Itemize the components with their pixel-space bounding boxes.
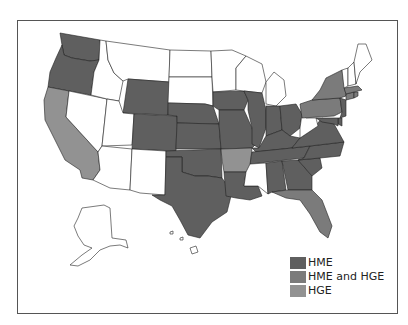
state-sd [168, 77, 213, 106]
state-ia [213, 91, 248, 110]
legend-swatch-hme [290, 257, 306, 269]
state-ny [312, 70, 346, 100]
legend-item-hme: HME [290, 256, 384, 270]
state-ks [176, 123, 221, 149]
state-hi [170, 231, 173, 234]
state-mi [266, 72, 286, 106]
state-co [132, 114, 177, 151]
state-pa [300, 98, 342, 118]
legend-label-hme: HME [308, 257, 333, 269]
state-ak [70, 205, 128, 266]
state-hi [190, 246, 198, 254]
legend-swatch-hme-and-hge [290, 271, 306, 283]
legend-item-hme-and-hge: HME and HGE [290, 270, 384, 284]
state-wy [123, 79, 169, 115]
legend: HME HME and HGE HGE [290, 256, 384, 298]
state-hi [180, 237, 183, 240]
state-me [354, 44, 372, 84]
state-de [338, 118, 342, 126]
state-nd [169, 50, 212, 77]
state-nm [130, 149, 166, 195]
state-ri [354, 92, 358, 98]
state-fl [272, 190, 332, 238]
legend-item-hge: HGE [290, 284, 384, 298]
legend-label-hge: HGE [308, 285, 332, 297]
legend-swatch-hge [290, 285, 306, 297]
state-ar [221, 148, 252, 172]
legend-label-hme-and-hge: HME and HGE [308, 271, 384, 283]
